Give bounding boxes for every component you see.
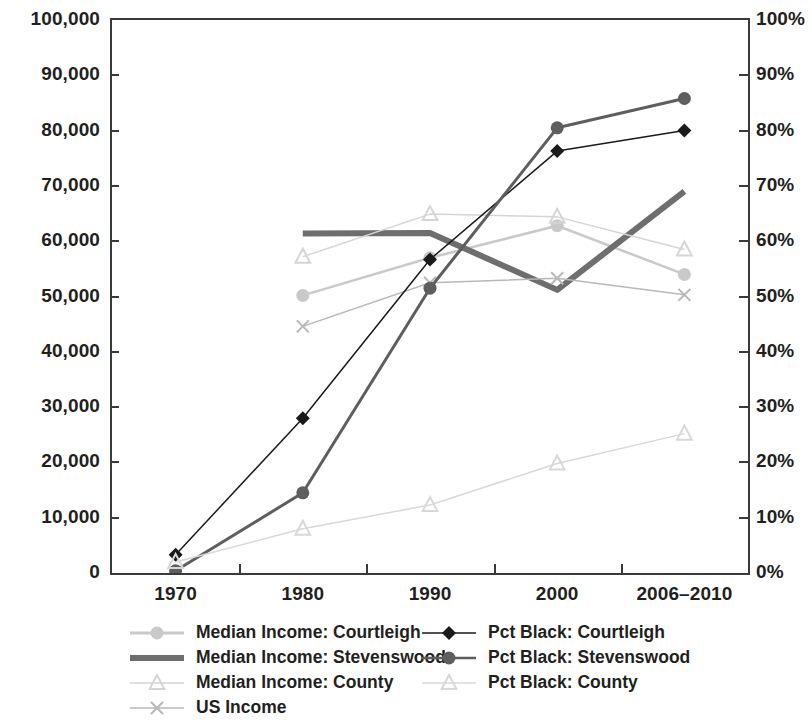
series-us-income xyxy=(297,272,691,332)
y-axis-right-tick-label: 60% xyxy=(756,229,794,251)
legend-swatch-circle-icon xyxy=(128,623,186,643)
y-axis-left-tick-mark xyxy=(110,74,119,76)
y-axis-left-tick-label: 60,000 xyxy=(4,229,100,251)
y-axis-left-tick-label: 40,000 xyxy=(4,340,100,362)
y-axis-left-tick-mark xyxy=(110,240,119,242)
y-axis-right-tick-label: 90% xyxy=(756,63,794,85)
series-line xyxy=(303,278,685,326)
data-point-marker xyxy=(424,282,437,295)
legend-label: Median Income: Stevenswood xyxy=(196,647,446,668)
y-axis-right-tick-label: 30% xyxy=(756,395,794,417)
legend-label: Median Income: Courtleigh xyxy=(196,622,421,643)
data-point-marker xyxy=(551,121,564,134)
legend-item[interactable]: Pct Black: County xyxy=(420,670,688,695)
y-axis-left-tick-label: 10,000 xyxy=(4,506,100,528)
y-axis-left-tick-label: 100,000 xyxy=(4,8,100,30)
data-point-marker xyxy=(678,268,691,281)
y-axis-left-tick-label: 90,000 xyxy=(4,63,100,85)
legend-marker xyxy=(151,626,164,639)
legend-item[interactable]: Pct Black: Courtleigh xyxy=(420,620,688,645)
y-axis-right-tick-label: 40% xyxy=(756,340,794,362)
plot-area xyxy=(110,18,750,575)
legend-item[interactable]: US Income xyxy=(128,695,396,720)
x-axis-tick-label: 1980 xyxy=(281,583,324,605)
y-axis-right-tick-mark xyxy=(739,406,748,408)
y-axis-right-tick-mark xyxy=(739,517,748,519)
legend-item[interactable]: Median Income: County xyxy=(128,670,396,695)
x-axis-tick-mark xyxy=(366,564,368,573)
legend-marker xyxy=(443,651,456,664)
legend-marker xyxy=(150,675,165,689)
y-axis-left-tick-mark xyxy=(110,130,119,132)
legend-marker xyxy=(442,626,456,640)
legend-label: Pct Black: Courtleigh xyxy=(488,622,665,643)
legend-marker xyxy=(442,675,457,689)
x-axis-tick-label: 1990 xyxy=(409,583,452,605)
y-axis-right-tick-mark xyxy=(739,130,748,132)
y-axis-left-tick-label: 0 xyxy=(4,561,100,583)
y-axis-right-tick-mark xyxy=(739,185,748,187)
y-axis-left-tick-label: 50,000 xyxy=(4,285,100,307)
x-axis-tick-mark xyxy=(621,564,623,573)
y-axis-right-tick-label: 0% xyxy=(756,561,784,583)
y-axis-left-tick-mark xyxy=(110,296,119,298)
data-point-marker xyxy=(551,219,564,232)
legend-label: Pct Black: Stevenswood xyxy=(488,647,690,668)
y-axis-left-tick-label: 20,000 xyxy=(4,450,100,472)
y-axis-right-tick-label: 50% xyxy=(756,285,794,307)
y-axis-right-tick-mark xyxy=(739,74,748,76)
plot-svg xyxy=(112,20,748,573)
data-point-marker xyxy=(297,320,309,332)
y-axis-left-tick-mark xyxy=(110,185,119,187)
data-point-marker xyxy=(678,92,691,105)
legend-swatch-cross-icon xyxy=(128,698,186,718)
legend-item[interactable]: Median Income: Courtleigh xyxy=(128,620,396,645)
chart-container: 010,00020,00030,00040,00050,00060,00070,… xyxy=(0,0,812,722)
y-axis-left-tick-mark xyxy=(110,406,119,408)
y-axis-right-tick-label: 20% xyxy=(756,450,794,472)
x-axis-tick-label: 2006–2010 xyxy=(636,583,732,605)
y-axis-right-tick-mark xyxy=(739,296,748,298)
x-axis-tick-label: 2000 xyxy=(536,583,579,605)
y-axis-left-tick-label: 30,000 xyxy=(4,395,100,417)
legend-swatch-triangle-icon xyxy=(420,673,478,693)
data-point-marker xyxy=(423,206,438,220)
y-axis-right-tick-label: 70% xyxy=(756,174,794,196)
y-axis-left-tick-mark xyxy=(110,351,119,353)
legend-item[interactable]: Pct Black: Stevenswood xyxy=(420,645,688,670)
y-axis-right-tick-mark xyxy=(739,240,748,242)
y-axis-right-tick-label: 10% xyxy=(756,506,794,528)
legend-item[interactable]: Median Income: Stevenswood xyxy=(128,645,396,670)
legend-swatch-circle-icon xyxy=(420,648,478,668)
legend-label: US Income xyxy=(196,697,286,718)
y-axis-right-tick-mark xyxy=(739,351,748,353)
series-pct-black-county xyxy=(168,426,692,568)
legend-swatch-diamond-icon xyxy=(420,623,478,643)
data-point-marker xyxy=(677,426,692,440)
series-pct-black-stevenswood xyxy=(169,92,691,573)
data-point-marker xyxy=(296,486,309,499)
chart-legend: Median Income: CourtleighPct Black: Cour… xyxy=(128,620,688,720)
x-axis-tick-mark xyxy=(239,564,241,573)
x-axis-tick-mark xyxy=(494,564,496,573)
legend-label: Pct Black: County xyxy=(488,672,638,693)
legend-label: Median Income: County xyxy=(196,672,393,693)
series-line xyxy=(176,99,685,571)
legend-swatch-none-icon xyxy=(128,648,186,668)
legend-swatch-triangle-icon xyxy=(128,673,186,693)
y-axis-right-tick-mark xyxy=(739,461,748,463)
y-axis-left-tick-label: 70,000 xyxy=(4,174,100,196)
y-axis-left-tick-mark xyxy=(110,517,119,519)
y-axis-left-tick-mark xyxy=(110,461,119,463)
data-point-marker xyxy=(677,124,691,138)
data-point-marker xyxy=(296,289,309,302)
y-axis-right-tick-label: 80% xyxy=(756,119,794,141)
x-axis-tick-label: 1970 xyxy=(154,583,197,605)
y-axis-right-tick-label: 100% xyxy=(756,8,805,30)
y-axis-left-tick-label: 80,000 xyxy=(4,119,100,141)
series-line xyxy=(176,131,685,555)
